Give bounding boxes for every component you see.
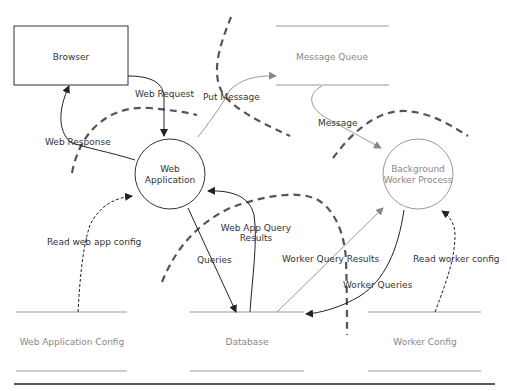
flow-web-request-label: Web Request: [135, 89, 195, 99]
datastore-worker-config[interactable]: Worker Config: [368, 312, 481, 371]
process-background-worker[interactable]: Background Worker Process: [383, 139, 453, 209]
flow-web-app-query-results[interactable]: [208, 191, 255, 312]
datastore-message-queue[interactable]: Message Queue: [276, 26, 389, 85]
data-flow-diagram: Browser Web Application Background Worke…: [0, 0, 507, 391]
trust-boundary-message-queue: [217, 17, 290, 136]
process-web-application[interactable]: Web Application: [135, 139, 205, 209]
flow-worker-query-results-label: Worker Query Results: [282, 254, 380, 264]
flow-web-request[interactable]: [128, 76, 164, 136]
process-web-application-label-1: Web: [160, 164, 180, 174]
datastore-web-application-config-label: Web Application Config: [20, 337, 125, 347]
flow-web-response[interactable]: [61, 86, 135, 160]
entity-browser-label: Browser: [53, 52, 90, 62]
datastore-database-label: Database: [226, 337, 269, 347]
process-background-worker-label-1: Background: [391, 164, 445, 174]
datastore-message-queue-label: Message Queue: [296, 52, 368, 62]
entity-browser[interactable]: Browser: [14, 26, 128, 85]
process-web-application-label-2: Application: [145, 175, 195, 185]
flow-put-message-label: Put Message: [203, 92, 260, 102]
datastore-database[interactable]: Database: [190, 312, 304, 371]
datastore-worker-config-label: Worker Config: [393, 337, 456, 347]
flow-message[interactable]: [312, 86, 381, 148]
flow-read-worker-config-label: Read worker config: [413, 254, 500, 264]
flow-queries-label: Queries: [197, 255, 232, 265]
flow-message-label: Message: [318, 118, 358, 128]
flow-worker-queries-label: Worker Queries: [343, 280, 413, 290]
flow-web-response-label: Web Response: [45, 137, 111, 147]
flow-web-app-query-results-label-1: Web App Query: [221, 223, 292, 233]
flow-read-web-app-config[interactable]: [78, 196, 132, 312]
datastore-web-application-config[interactable]: Web Application Config: [16, 312, 127, 371]
flow-web-app-query-results-label-2: Results: [240, 233, 273, 243]
flow-read-web-app-config-label: Read web app config: [47, 237, 141, 247]
process-background-worker-label-2: Worker Process: [384, 175, 453, 185]
